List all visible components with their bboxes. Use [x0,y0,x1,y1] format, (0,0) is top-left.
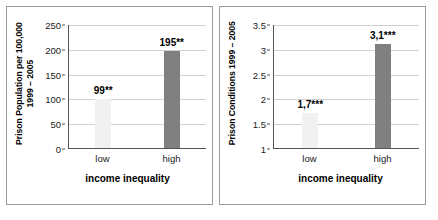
y-tick-mark [62,99,65,100]
y-axis-tick-labels: 0 50 100 150 200 250 [37,25,65,149]
x-axis-line [69,148,206,149]
x-axis-title: income inequality [260,173,421,184]
plot-area: 1,7*** 3,1*** [273,25,419,149]
plot-area: 99** 195** [68,25,206,149]
bar-group-low: 1,7*** [274,24,347,148]
x-tick-label-low: low [68,153,137,164]
y-axis-title: Prison Population per 100,000 1999 – 200… [7,7,41,159]
y-axis-title: Prison Conditions 1999 – 2005 [220,7,244,159]
two-panel-bar-chart-figure: Prison Population per 100,000 1999 – 200… [0,0,438,220]
x-tick-label-high: high [346,153,419,164]
x-tick-label-high: high [137,153,206,164]
y-tick-mark [62,74,65,75]
bar-group-high: 195** [138,24,207,148]
x-axis-tick-labels: low high [68,153,206,167]
y-axis-tick-labels: 1 1.5 2 2.5 3 3.5 [242,25,270,149]
y-tick-mark [62,149,65,150]
y-tick-label: 50 [50,119,61,130]
y-tick-mark [267,124,270,125]
y-axis-title-line-1: Prison Conditions 1999 – 2005 [227,21,237,145]
x-axis-line [274,148,419,149]
y-tick-mark [267,149,270,150]
x-axis-title: income inequality [47,173,208,184]
y-tick-mark [267,74,270,75]
bar-value-label: 195** [160,37,184,48]
y-tick-label: 0 [56,144,61,155]
y-tick-label: 100 [45,94,61,105]
y-tick-label: 250 [45,20,61,31]
y-axis-title-line-2: 1999 – 2005 [24,59,34,107]
y-tick-label: 2.5 [253,69,266,80]
y-tick-label: 1 [261,144,266,155]
bar-value-label: 1,7*** [297,99,323,110]
bar-group-low: 99** [69,24,138,148]
bar-high [164,51,180,148]
x-tick-label-low: low [273,153,346,164]
bar-high [375,44,391,148]
y-tick-mark [62,49,65,50]
y-tick-mark [62,25,65,26]
y-tick-label: 3 [261,44,266,55]
chart-panel-prison-conditions: Prison Conditions 1999 – 2005 1 1.5 2 2.… [219,6,426,205]
y-tick-mark [267,25,270,26]
chart-panel-prison-population: Prison Population per 100,000 1999 – 200… [6,6,213,205]
bar-group-high: 3,1*** [347,24,420,148]
y-tick-label: 150 [45,69,61,80]
x-axis-tick-labels: low high [273,153,419,167]
bar-low [95,99,111,148]
y-tick-label: 2 [261,94,266,105]
y-tick-label: 200 [45,44,61,55]
y-axis-title-line-1: Prison Population per 100,000 [14,22,24,145]
bar-value-label: 3,1*** [370,30,396,41]
y-tick-label: 1.5 [253,119,266,130]
bar-low [302,113,318,148]
bar-value-label: 99** [94,85,113,96]
y-tick-label: 3.5 [253,20,266,31]
y-tick-mark [62,124,65,125]
y-tick-mark [267,99,270,100]
y-tick-mark [267,49,270,50]
